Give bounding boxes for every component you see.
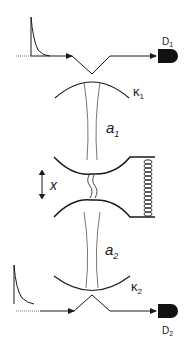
optomechanics-diagram: D1 κ1 a1 (0, 0, 192, 357)
cavity-mode-bottom (84, 212, 100, 288)
kappa-top-label: κ1 (133, 84, 145, 101)
input-beam-bottom (40, 295, 156, 311)
cavity-mode-top (84, 82, 100, 160)
mechanical-oscillator (54, 157, 155, 217)
detector-bottom-label: D2 (162, 325, 173, 337)
top-mirror (55, 82, 129, 98)
bottom-mirror (54, 276, 130, 291)
displacement-label: x (49, 177, 58, 193)
mode-bottom-label: a2 (105, 241, 118, 261)
input-pulse-top-icon (16, 17, 50, 56)
detector-top-icon (158, 49, 178, 63)
displacement-arrow-icon (39, 170, 45, 199)
detector-top-label: D1 (162, 36, 173, 48)
detector-bottom-icon (158, 304, 178, 318)
input-beam-top (31, 56, 156, 74)
input-pulse-bottom-icon (14, 265, 40, 311)
spring-icon (144, 159, 152, 216)
kappa-bottom-label: κ2 (131, 279, 143, 296)
mode-top-label: a1 (106, 119, 119, 139)
